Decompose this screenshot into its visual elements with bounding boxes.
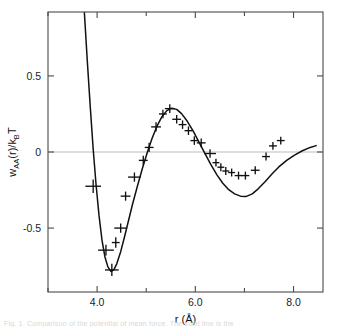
- data-point: [179, 120, 187, 129]
- data-point: [251, 166, 260, 174]
- data-point: [228, 169, 235, 177]
- data-point: [112, 237, 120, 248]
- data-point: [213, 159, 220, 167]
- data-point: [217, 163, 224, 171]
- y-tick-label: 0.5: [26, 70, 41, 82]
- figure-container: 4.06.08.00.50-0.5 r (Å)wAA(r)/kBT Fig. 1…: [0, 0, 337, 334]
- data-points-group: [85, 104, 284, 276]
- figure-caption: Fig. 1. Comparison of the potential of m…: [0, 320, 337, 327]
- data-point: [277, 137, 285, 145]
- data-point: [151, 122, 161, 131]
- data-point: [121, 192, 131, 201]
- y-tick-label: 0: [35, 146, 41, 158]
- y-tick-label: -0.5: [23, 222, 41, 234]
- data-point: [235, 172, 243, 180]
- x-tick-label: 4.0: [90, 296, 105, 308]
- data-point: [241, 172, 249, 180]
- tick-labels-group: 4.06.08.00.50-0.5: [23, 70, 301, 308]
- data-point: [222, 167, 229, 175]
- data-point: [145, 143, 154, 152]
- x-tick-label: 6.0: [188, 296, 203, 308]
- x-tick-label: 8.0: [286, 296, 301, 308]
- data-point: [262, 153, 270, 161]
- y-axis-title: wAA(r)/kBT: [6, 127, 21, 178]
- data-point: [98, 245, 114, 256]
- data-point: [172, 115, 181, 124]
- data-point: [269, 142, 277, 150]
- plot-canvas: 4.06.08.00.50-0.5 r (Å)wAA(r)/kBT: [0, 0, 337, 334]
- data-point: [85, 179, 101, 193]
